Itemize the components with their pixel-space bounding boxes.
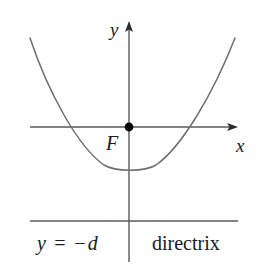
directrix-name-label: directrix — [152, 232, 220, 254]
y-axis-label: y — [108, 19, 119, 40]
parabola-figure: y x F y = −d directrix — [0, 0, 262, 270]
focus-label: F — [105, 132, 119, 154]
parabola-curve — [30, 38, 235, 170]
focus-point — [125, 123, 134, 132]
directrix-equation-label: y = −d — [35, 232, 99, 255]
x-axis-label: x — [235, 135, 245, 156]
figure-canvas: y x F y = −d directrix — [0, 0, 262, 270]
